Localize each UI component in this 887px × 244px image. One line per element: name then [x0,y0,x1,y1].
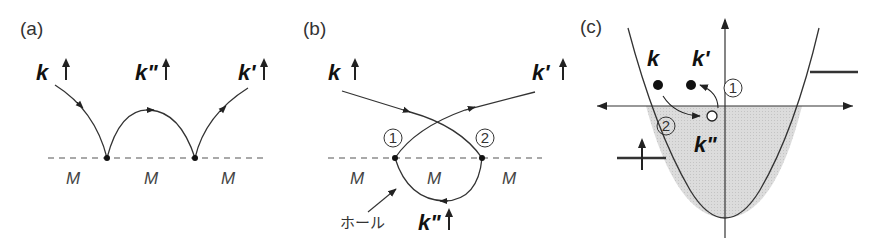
svg-text:1: 1 [729,79,737,96]
transition-arrow-1-icon [700,85,718,108]
state-k2-label: k" [418,210,441,235]
propagator-k [55,85,107,158]
spin-up-icon [445,208,453,230]
svg-text:1: 1 [389,129,397,146]
direction-arrow-icon [77,102,83,108]
panel-a: (a) k k" k' M M M [20,18,268,188]
state-k2-hole [707,111,717,121]
svg-text:2: 2 [662,117,670,134]
panel-c: (c) k k' k" 1 2 [580,16,858,238]
svg-text:2: 2 [481,129,489,146]
axis-arrow-left-icon [597,102,607,110]
spin-up-icon [260,58,268,80]
impurity-label: M [66,169,81,188]
panel-b: (b) k k' 1 2 M M [303,18,567,235]
state-k2-label: k" [135,60,158,85]
impurity-label: M [350,169,365,188]
axis-arrow-up-icon [721,18,729,29]
hole-label: ホール [340,214,385,232]
impurity-label: M [427,169,442,188]
panel-b-label: (b) [303,18,326,39]
spin-up-icon [559,58,567,80]
impurity-label: M [502,169,517,188]
circled-number-1: 1 [724,79,742,97]
propagator-k1 [395,92,535,158]
axis-arrow-right-icon [843,102,853,110]
scattering-vertex-2 [479,155,485,161]
state-k1-dot [686,80,696,90]
propagator-k [342,91,482,158]
state-k-label: k [328,60,342,85]
spin-up-icon [162,58,170,80]
scattering-vertex [192,155,198,161]
state-k-label: k [36,60,50,85]
state-k-dot [653,80,663,90]
state-k1-label: k' [532,60,550,85]
scattering-vertex-1 [392,155,398,161]
impurity-label: M [144,169,159,188]
impurity-label: M [221,169,236,188]
figure-canvas: (a) k k" k' M M M [0,0,887,244]
propagator-k1 [195,88,248,158]
spin-up-icon [62,58,70,80]
circled-number-2: 2 [476,129,494,147]
state-k-label: k [647,46,661,71]
state-k1-label: k' [692,46,710,71]
propagator-k2 [107,110,195,158]
spin-up-icon [638,138,646,148]
scattering-vertex [104,155,110,161]
spin-up-icon [351,58,359,80]
state-k1-label: k' [238,60,256,85]
panel-c-label: (c) [580,16,602,37]
state-k2-label: k" [694,132,717,157]
panel-a-label: (a) [20,18,43,39]
hole-pointer-arrow-icon [368,189,396,212]
circled-number-1: 1 [384,129,402,147]
